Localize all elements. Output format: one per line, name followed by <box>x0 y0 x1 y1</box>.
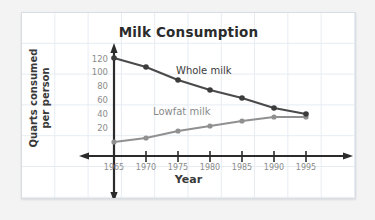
y-tick-40: 40 <box>84 109 108 119</box>
chart-card: Milk Consumption <box>21 12 356 199</box>
x-axis-title: Year <box>22 173 355 186</box>
x-tick-1980: 1980 <box>194 163 226 172</box>
series-label-lowfat-milk: Lowfat milk <box>153 106 211 117</box>
y-axis-title: Quarts consumed per person <box>28 33 52 163</box>
x-tick-1990: 1990 <box>258 163 290 172</box>
y-tick-20: 20 <box>84 123 108 133</box>
y-tick-60: 60 <box>84 95 108 105</box>
x-tick-1975: 1975 <box>162 163 194 172</box>
y-tick-100: 100 <box>84 67 108 77</box>
x-tick-1965: 1965 <box>98 163 130 172</box>
x-tick-1985: 1985 <box>226 163 258 172</box>
x-tick-1995: 1995 <box>290 163 322 172</box>
x-tick-1970: 1970 <box>130 163 162 172</box>
y-tick-80: 80 <box>84 81 108 91</box>
y-axis-title-line1: Quarts consumed <box>28 49 39 148</box>
series-label-whole-milk: Whole milk <box>176 65 232 76</box>
x-axis <box>79 152 353 159</box>
y-axis-title-line2: per person <box>40 67 51 128</box>
y-tick-120: 120 <box>84 54 108 64</box>
series-lowfat-milk <box>111 114 308 144</box>
